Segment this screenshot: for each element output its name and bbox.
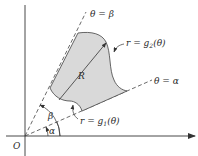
polar-region-diagram: O R θ = β θ = α α β r = g2(θ) r = g1(θ) bbox=[0, 0, 198, 156]
origin-label: O bbox=[13, 141, 21, 151]
angle-beta-label: β bbox=[47, 111, 53, 121]
angle-alpha-label: α bbox=[49, 126, 55, 136]
region-r bbox=[50, 32, 127, 111]
leader-g1 bbox=[73, 105, 78, 119]
outer-curve-label: r = g2(θ) bbox=[126, 38, 166, 49]
ray-alpha-label: θ = α bbox=[154, 76, 179, 86]
inner-curve-label: r = g1(θ) bbox=[80, 116, 120, 127]
region-label: R bbox=[77, 71, 85, 81]
angle-arc-alpha-small bbox=[46, 127, 48, 136]
ray-beta-label: θ = β bbox=[90, 9, 114, 19]
diagram-canvas: O R θ = β θ = α α β r = g2(θ) r = g1(θ) bbox=[0, 0, 198, 156]
leader-g2 bbox=[114, 44, 124, 52]
